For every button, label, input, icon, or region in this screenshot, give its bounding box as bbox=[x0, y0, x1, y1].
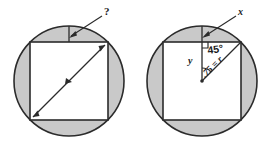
right-x-label: x bbox=[237, 6, 243, 17]
right-y-label: y bbox=[187, 55, 193, 66]
right-center-dot bbox=[200, 79, 204, 83]
geometry-figure-container: ? x y 45° bbox=[0, 0, 272, 145]
left-unknown-label: ? bbox=[104, 5, 110, 17]
right-angle-label: 45° bbox=[207, 42, 224, 56]
left-figure-group: ? bbox=[14, 5, 124, 136]
right-figure-group: x y 45° .75 = r bbox=[147, 6, 257, 136]
geometry-diagram-svg: ? x y 45° bbox=[0, 0, 272, 145]
